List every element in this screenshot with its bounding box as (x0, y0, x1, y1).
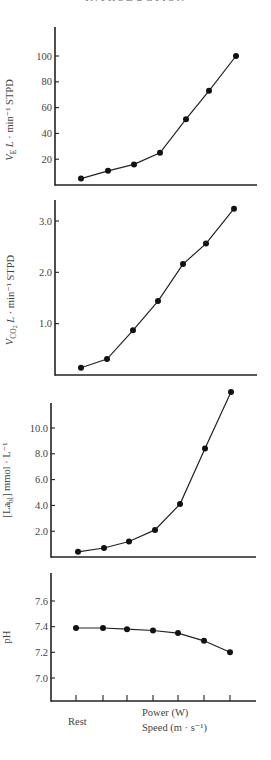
x-label-speed: Speed (m · s⁻¹) (142, 722, 207, 734)
data-line (81, 56, 236, 179)
data-point (78, 176, 84, 182)
data-point (227, 649, 233, 655)
y-tick-label: 100 (36, 51, 52, 62)
y-tick-label: 60 (42, 102, 53, 113)
chart-panel-ph: 7.07.27.47.6pH (1, 573, 256, 702)
data-point (203, 241, 209, 247)
x-label-rest: Rest (68, 716, 87, 727)
data-point (202, 446, 208, 452)
y-tick-label: 2.0 (39, 267, 52, 278)
data-point (105, 168, 111, 174)
data-point (201, 638, 207, 644)
y-axis-label: [Labl] mmol · L⁻¹ (1, 443, 15, 518)
y-tick-label: 20 (42, 154, 53, 165)
data-point (75, 549, 81, 555)
data-point (78, 365, 84, 371)
y-tick-label: 7.2 (35, 647, 48, 658)
y-axis-label: VCO2 L · min⁻¹ STPD (4, 254, 18, 345)
data-point (100, 625, 106, 631)
data-point (206, 88, 212, 94)
y-tick-label: 4.0 (35, 500, 48, 511)
data-point (131, 161, 137, 167)
data-point (180, 261, 186, 267)
chart-panel-blood-lactate: 2.04.06.08.010.0[Labl] mmol · L⁻¹ (1, 389, 256, 558)
y-tick-label: 2.0 (35, 526, 48, 537)
y-axis-label: VE L · min⁻¹ STPD (4, 79, 18, 161)
data-point (228, 389, 234, 395)
y-tick-label: 1.0 (39, 318, 52, 329)
y-tick-label: 10.0 (30, 423, 48, 434)
chart-panel-ventilation: 20406080100VE L · min⁻¹ STPD (4, 27, 257, 186)
data-point (130, 327, 136, 333)
data-point (152, 527, 158, 533)
data-point (233, 53, 239, 59)
data-line (81, 209, 234, 368)
y-tick-label: 7.4 (35, 621, 49, 632)
y-tick-label: 6.0 (35, 474, 48, 485)
data-point (126, 539, 132, 545)
y-axis-label: pH (1, 630, 12, 643)
data-point (73, 625, 79, 631)
chart-stack: 20406080100VE L · min⁻¹ STPD 1.02.03.0VC… (0, 0, 271, 760)
y-tick-label: 8.0 (35, 448, 48, 459)
x-axis-labels: Rest Power (W) Speed (m · s⁻¹) (68, 707, 207, 734)
data-point (101, 545, 107, 551)
y-tick-label: 7.6 (35, 596, 48, 607)
y-tick-label: 80 (42, 76, 53, 87)
chart-panel-co2-output: 1.02.03.0VCO2 L · min⁻¹ STPD (4, 200, 257, 376)
data-point (175, 630, 181, 636)
data-point (155, 298, 161, 304)
data-point (177, 501, 183, 507)
data-point (157, 150, 163, 156)
y-tick-label: 40 (42, 128, 53, 139)
data-point (183, 116, 189, 122)
y-tick-label: 7.0 (35, 673, 48, 684)
data-point (231, 206, 237, 212)
y-tick-label: 3.0 (39, 216, 52, 227)
x-label-power: Power (W) (142, 707, 189, 719)
data-point (150, 628, 156, 634)
data-point (124, 626, 130, 632)
data-point (104, 356, 110, 362)
